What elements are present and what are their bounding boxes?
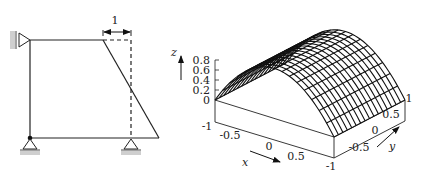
pin-support-bottom-right bbox=[121, 139, 141, 155]
x-tick-label: 0.5 bbox=[287, 150, 305, 163]
roller-support-top-left bbox=[10, 31, 30, 49]
figure: 1 z bbox=[0, 0, 425, 181]
z-tick-label: 0 bbox=[203, 94, 210, 107]
y-tick-label: 1 bbox=[406, 92, 413, 105]
x-axis-label: x bbox=[242, 156, 249, 169]
x-tick-label: 0 bbox=[266, 140, 273, 153]
z-axis-label: z bbox=[170, 46, 177, 59]
surface-mesh bbox=[215, 30, 405, 137]
z-axis: 0.8 0.6 0.4 0.2 0 bbox=[193, 54, 220, 107]
x-tick-label: -0.5 bbox=[219, 129, 240, 142]
figure-canvas: 1 z bbox=[0, 0, 425, 181]
dimension-label: 1 bbox=[112, 14, 119, 27]
surface-plot: z 0.8 0.6 0.4 0.2 0 bbox=[170, 30, 413, 173]
x-tick-label: -1 bbox=[202, 120, 213, 133]
y-tick-label: 0.5 bbox=[382, 108, 400, 121]
y-tick-label: -0.5 bbox=[348, 141, 369, 154]
y-tick-label: 0 bbox=[372, 124, 379, 137]
frame-diagram: 1 bbox=[10, 14, 159, 155]
x-tick-label: -1 bbox=[326, 160, 337, 173]
y-axis-label: y bbox=[388, 140, 396, 153]
